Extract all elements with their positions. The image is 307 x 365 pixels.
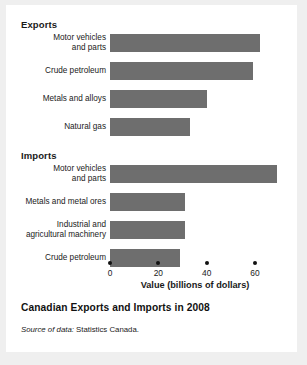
bar-label-line: Motor vehicles — [53, 33, 106, 43]
bar-track — [110, 221, 297, 239]
bar-chart: ExportsMotor vehiclesand partsCrude petr… — [6, 5, 297, 295]
axis-tick-dot — [156, 261, 160, 265]
bar-label: Crude petroleum — [6, 60, 106, 82]
bar-label-line: and parts — [72, 174, 106, 184]
source-lead: Source of data: — [21, 325, 74, 334]
bar-label-line: and parts — [72, 43, 106, 53]
bar-track — [110, 62, 297, 80]
figure-caption-title: Canadian Exports and Imports in 2008 — [21, 302, 210, 313]
x-axis: 0204060Value (billions of dollars) — [6, 261, 297, 295]
bar-label-line: Motor vehicles — [53, 164, 106, 174]
x-axis-title: Value (billions of dollars) — [110, 280, 280, 290]
bar-row: Motor vehiclesand parts — [6, 163, 297, 185]
bar — [110, 193, 185, 211]
bar-label: Motor vehiclesand parts — [6, 163, 106, 185]
source-body: Statistics Canada. — [76, 325, 139, 334]
axis-tick-label: 40 — [202, 268, 211, 278]
bar-row: Metals and metal ores — [6, 191, 297, 213]
axis-tick-dot — [205, 261, 209, 265]
bar-label-line: Industrial and — [57, 220, 106, 230]
bar-track — [110, 165, 297, 183]
bar-label-line: agricultural machinery — [26, 230, 106, 240]
figure-source-note: Source of data: Statistics Canada. — [21, 325, 139, 334]
bar-track — [110, 193, 297, 211]
group-heading-exports: Exports — [21, 19, 57, 30]
axis-tick-label: 20 — [154, 268, 163, 278]
bar-row: Industrial andagricultural machinery — [6, 219, 297, 241]
bar — [110, 90, 207, 108]
bar-row: Crude petroleum — [6, 60, 297, 82]
bar-label: Metals and alloys — [6, 88, 106, 110]
bar — [110, 62, 253, 80]
bar — [110, 118, 190, 136]
bar-label: Metals and metal ores — [6, 191, 106, 213]
axis-tick-label: 60 — [250, 268, 259, 278]
bar — [110, 165, 277, 183]
bar-track — [110, 90, 297, 108]
bar-label: Industrial andagricultural machinery — [6, 219, 106, 241]
bar-label-line: Crude petroleum — [45, 66, 106, 76]
bar-row: Natural gas — [6, 116, 297, 138]
bar-track — [110, 118, 297, 136]
axis-tick-dot — [108, 261, 112, 265]
bar-row: Metals and alloys — [6, 88, 297, 110]
bar-label-line: Metals and alloys — [43, 94, 106, 104]
bar-label-line: Metals and metal ores — [25, 197, 106, 207]
axis-tick-dot — [253, 261, 257, 265]
bar-track — [110, 34, 297, 52]
bar-label: Natural gas — [6, 116, 106, 138]
bar-label-line: Natural gas — [64, 122, 106, 132]
bar — [110, 221, 185, 239]
axis-tick-label: 0 — [108, 268, 113, 278]
group-heading-imports: Imports — [21, 150, 57, 161]
figure-panel: ExportsMotor vehiclesand partsCrude petr… — [6, 5, 297, 352]
bar — [110, 34, 260, 52]
bar-label: Motor vehiclesand parts — [6, 32, 106, 54]
bar-row: Motor vehiclesand parts — [6, 32, 297, 54]
